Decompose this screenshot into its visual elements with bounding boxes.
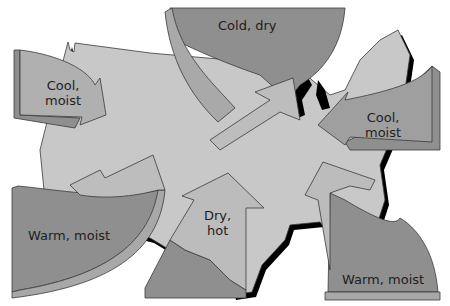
label-line: Dry, — [204, 208, 231, 223]
label-cool-moist-west: Cool, moist — [45, 78, 81, 108]
label-line: moist — [45, 93, 81, 108]
label-warm-moist-east: Warm, moist — [342, 272, 424, 287]
label-line: Cool, — [365, 110, 401, 125]
label-cold-dry: Cold, dry — [218, 18, 276, 33]
air-mass-diagram — [0, 0, 450, 306]
label-line: moist — [365, 125, 401, 140]
label-cool-moist-east: Cool, moist — [365, 110, 401, 140]
label-warm-moist-west: Warm, moist — [28, 228, 110, 243]
warm-moist-east-edge — [325, 292, 440, 300]
label-line: hot — [204, 223, 231, 238]
label-dry-hot: Dry, hot — [204, 208, 231, 238]
label-line: Cool, — [45, 78, 81, 93]
